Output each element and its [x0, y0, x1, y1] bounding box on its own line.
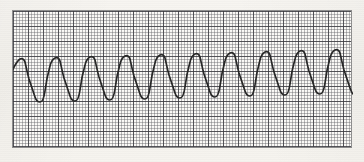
ecg-waveform-path [13, 50, 353, 102]
ecg-grid-panel [12, 10, 352, 148]
ecg-screenshot [0, 0, 364, 162]
ecg-trace-layer [13, 11, 351, 147]
ecg-waveform-svg [13, 11, 353, 149]
